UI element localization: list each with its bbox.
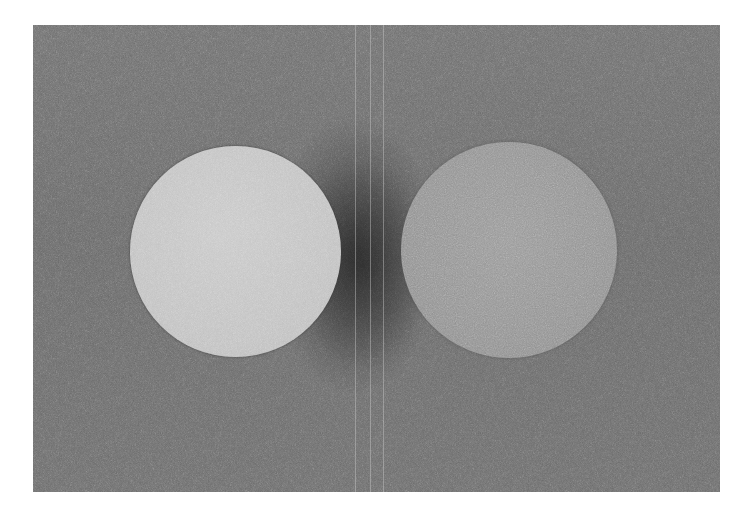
image-canvas bbox=[0, 0, 753, 520]
seam-line bbox=[370, 25, 371, 492]
sphere-grain bbox=[130, 146, 341, 357]
photograph bbox=[33, 25, 720, 492]
right-sphere bbox=[401, 142, 617, 358]
left-sphere bbox=[130, 146, 341, 357]
seam-line bbox=[355, 25, 356, 492]
sphere-grain bbox=[401, 142, 617, 358]
seam-line bbox=[383, 25, 384, 492]
